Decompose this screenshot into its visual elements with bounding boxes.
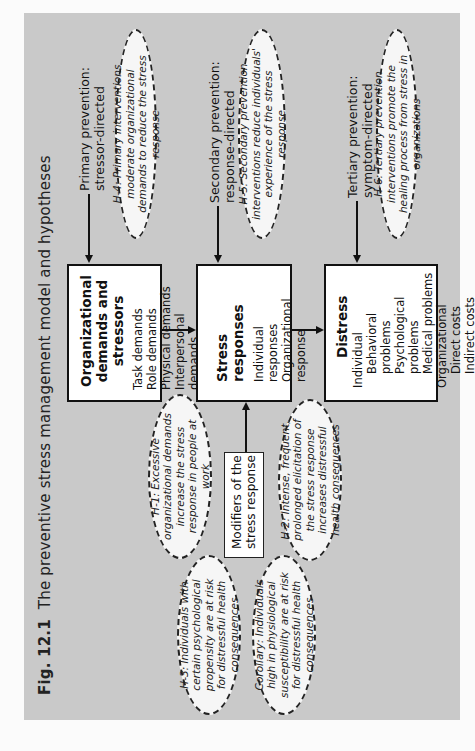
hypothesis-h1-ellipse: H-1: Excessive organizational demands in… <box>148 394 212 559</box>
hypothesis-h6-text: H-6: Tertiary prevention interventions p… <box>372 45 422 223</box>
arrow-responses-to-distress <box>292 330 317 332</box>
secondary-prevention-subtitle: response-directed <box>222 61 237 203</box>
hypothesis-h4-ellipse: H-4: Primary interventions moderate orga… <box>115 29 157 239</box>
modifiers-line1: Modifiers of the <box>230 453 244 549</box>
demands-heading-line1: Organizational <box>78 272 94 390</box>
modifiers-line2: stress response <box>244 453 258 549</box>
secondary-prevention-label: Secondary prevention: response-directed <box>207 61 237 203</box>
stress-responses-box: Stress responses Individual responses Or… <box>196 264 292 402</box>
hypothesis-h5-text: H-5: Secondary prevention interventions … <box>237 45 287 223</box>
arrow-modifiers-to-responses <box>245 410 247 452</box>
response-item: Individual responses <box>252 272 280 382</box>
hypothesis-h4-text: H-4: Primary interventions moderate orga… <box>111 45 161 223</box>
tertiary-arrow-line <box>356 201 358 256</box>
figure-title: The preventive stress management model a… <box>36 155 54 609</box>
primary-arrow-line <box>88 194 90 256</box>
demands-heading-line2: demands and stressors <box>94 272 126 390</box>
hypothesis-h1-text: H-1: Excessive organizational demands in… <box>149 410 212 543</box>
secondary-arrow-head-icon <box>214 255 222 263</box>
hypothesis-h6-ellipse: H-6: Tertiary prevention interventions p… <box>376 29 418 239</box>
figure-number: Fig. 12.1 <box>36 619 54 695</box>
arrow-head-icon <box>188 326 196 334</box>
figure-caption: Fig. 12.1The preventive stress managemen… <box>36 155 54 695</box>
demand-item: Task demands <box>131 272 145 390</box>
tertiary-prevention-title: Tertiary prevention: <box>345 75 360 198</box>
demand-item: Role demands <box>145 272 159 390</box>
distress-item: Indirect costs <box>463 272 475 388</box>
arrow-head-icon <box>316 326 324 334</box>
tertiary-arrow-head-icon <box>353 255 361 263</box>
distress-item: Direct costs <box>449 272 463 388</box>
distress-category: Organizational <box>435 272 449 388</box>
hypothesis-h3-ellipse: H-3: Individuals with certain psychologi… <box>177 555 241 715</box>
distress-item: Medical problems <box>421 272 435 388</box>
corollary-text: Corollary: Individuals high in physiolog… <box>253 571 316 699</box>
secondary-arrow-line <box>217 206 219 256</box>
arrow-head-icon <box>242 402 250 410</box>
arrow-demands-to-responses <box>162 330 189 332</box>
hypothesis-h5-ellipse: H-5: Secondary prevention interventions … <box>238 29 286 239</box>
hypothesis-h2-text: H-2: Intense, frequent, prolonged elicit… <box>279 415 342 545</box>
distress-category: Individual <box>351 272 365 388</box>
primary-prevention-title: Primary prevention: <box>77 67 92 191</box>
primary-prevention-subtitle: stressor-directed <box>92 67 107 191</box>
responses-heading: Stress responses <box>214 272 246 382</box>
demand-item: Physical demands <box>159 272 173 390</box>
distress-box: Distress Individual Behavioral problems … <box>324 264 438 402</box>
distress-item: Behavioral problems <box>365 272 393 388</box>
tertiary-prevention-label: Tertiary prevention: symptom-directed <box>345 75 375 198</box>
modifiers-box: Modifiers of the stress response <box>224 452 264 558</box>
hypothesis-h2-ellipse: H-2: Intense, frequent, prolonged elicit… <box>278 399 342 561</box>
hypothesis-h3-text: H-3: Individuals with certain psychologi… <box>178 571 241 699</box>
primary-prevention-label: Primary prevention: stressor-directed <box>77 67 107 191</box>
distress-heading: Distress <box>334 272 350 388</box>
response-item: Organizational response <box>280 272 308 382</box>
corollary-ellipse: Corollary: Individuals high in physiolog… <box>252 555 316 715</box>
page: Fig. 12.1The preventive stress managemen… <box>0 0 475 751</box>
organizational-demands-box: Organizational demands and stressors Tas… <box>67 264 162 402</box>
secondary-prevention-title: Secondary prevention: <box>207 61 222 203</box>
primary-arrow-head-icon <box>85 255 93 263</box>
rotated-figure: Fig. 12.1The preventive stress managemen… <box>0 0 475 751</box>
distress-item: Psychological problems <box>393 272 421 388</box>
